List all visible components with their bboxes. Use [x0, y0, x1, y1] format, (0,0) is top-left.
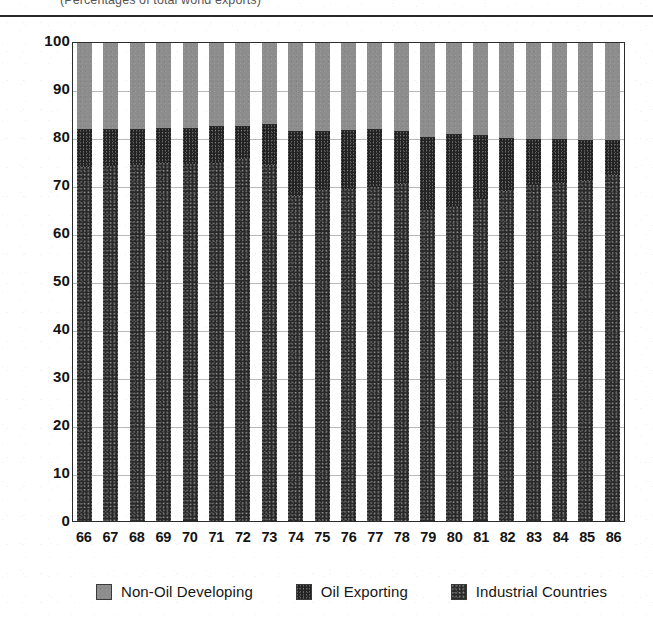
- x-axis-tick-label: 81: [473, 529, 488, 551]
- bar-segment-oil-exporting: [77, 130, 92, 167]
- bar-segment-oil-exporting: [499, 139, 514, 192]
- bar-70: [183, 43, 198, 521]
- x-axis-tick-label: 69: [155, 529, 170, 551]
- bar-segment-industrial-countries: [473, 199, 488, 521]
- x-axis-tick-label: 80: [447, 529, 462, 551]
- y-axis-tick-label: 90: [24, 80, 70, 97]
- bar-segment-oil-exporting: [394, 132, 409, 185]
- bar-segment-non-oil-developing: [209, 43, 224, 127]
- y-axis-tick-label: 30: [24, 368, 70, 385]
- x-axis-tick-label: 70: [182, 529, 197, 551]
- x-axis-tick-label: 83: [526, 529, 541, 551]
- bar-segment-industrial-countries: [446, 207, 461, 521]
- x-axis: 6667686970717273747576777879808182838485…: [72, 529, 625, 551]
- bar-segment-oil-exporting: [156, 129, 171, 163]
- bar-segment-non-oil-developing: [130, 43, 145, 130]
- x-axis-tick-label: 76: [341, 529, 356, 551]
- bar-segment-industrial-countries: [262, 165, 277, 521]
- bar-segment-non-oil-developing: [578, 43, 593, 141]
- bar-segment-non-oil-developing: [156, 43, 171, 129]
- bar-segment-industrial-countries: [235, 159, 250, 521]
- bar-segment-industrial-countries: [77, 167, 92, 521]
- bar-segment-industrial-countries: [605, 175, 620, 521]
- bar-76: [341, 43, 356, 521]
- bar-segment-industrial-countries: [288, 196, 303, 521]
- plot-area: [72, 42, 625, 522]
- y-axis-tick-label: 0: [24, 512, 70, 529]
- legend-label-industrial-countries: Industrial Countries: [476, 583, 607, 600]
- chart-legend: Non-Oil DevelopingOil ExportingIndustria…: [72, 583, 625, 600]
- bar-segment-oil-exporting: [605, 141, 620, 174]
- bar-segment-oil-exporting: [367, 130, 382, 187]
- bar-segment-industrial-countries: [578, 181, 593, 521]
- x-axis-tick-label: 73: [261, 529, 276, 551]
- bar-75: [315, 43, 330, 521]
- bar-71: [209, 43, 224, 521]
- bar-segment-oil-exporting: [262, 125, 277, 165]
- bar-segment-non-oil-developing: [235, 43, 250, 127]
- bar-82: [499, 43, 514, 521]
- bar-83: [526, 43, 541, 521]
- bar-segment-oil-exporting: [183, 129, 198, 164]
- y-axis-tick-label: 80: [24, 128, 70, 145]
- bar-segment-non-oil-developing: [77, 43, 92, 130]
- bar-segment-non-oil-developing: [499, 43, 514, 139]
- y-axis-tick-label: 40: [24, 320, 70, 337]
- x-axis-tick-label: 82: [500, 529, 515, 551]
- legend-item-oil-exporting[interactable]: Oil Exporting: [296, 583, 408, 600]
- bar-segment-industrial-countries: [156, 163, 171, 521]
- bar-segment-industrial-countries: [499, 191, 514, 521]
- bar-segment-industrial-countries: [341, 189, 356, 521]
- x-axis-tick-label: 77: [367, 529, 382, 551]
- legend-swatch-industrial-countries: [451, 584, 467, 600]
- bar-segment-industrial-countries: [367, 187, 382, 521]
- bar-segment-oil-exporting: [341, 131, 356, 189]
- bar-segment-non-oil-developing: [473, 43, 488, 136]
- bar-segment-non-oil-developing: [103, 43, 118, 130]
- x-axis-tick-label: 86: [606, 529, 621, 551]
- bar-85: [578, 43, 593, 521]
- bar-segment-industrial-countries: [209, 163, 224, 521]
- bar-78: [394, 43, 409, 521]
- x-axis-tick-label: 84: [553, 529, 568, 551]
- bar-72: [235, 43, 250, 521]
- legend-item-industrial-countries[interactable]: Industrial Countries: [451, 583, 607, 600]
- legend-item-non-oil-developing[interactable]: Non-Oil Developing: [96, 583, 253, 600]
- bar-77: [367, 43, 382, 521]
- x-axis-tick-label: 74: [288, 529, 303, 551]
- bar-80: [446, 43, 461, 521]
- bar-segment-industrial-countries: [183, 164, 198, 521]
- x-axis-tick-label: 68: [129, 529, 144, 551]
- bar-segment-industrial-countries: [103, 166, 118, 521]
- bar-segment-non-oil-developing: [446, 43, 461, 135]
- legend-label-non-oil-developing: Non-Oil Developing: [121, 583, 253, 600]
- bar-segment-oil-exporting: [315, 132, 330, 190]
- bar-segment-non-oil-developing: [288, 43, 303, 132]
- bar-segment-oil-exporting: [209, 127, 224, 163]
- bar-74: [288, 43, 303, 521]
- bar-segment-oil-exporting: [552, 140, 567, 183]
- bar-segment-oil-exporting: [526, 140, 541, 186]
- legend-swatch-non-oil-developing: [96, 584, 112, 600]
- chart-subtitle: (Percentages of total world exports): [60, 0, 261, 7]
- bar-segment-industrial-countries: [130, 165, 145, 521]
- bar-79: [420, 43, 435, 521]
- bar-67: [103, 43, 118, 521]
- y-axis-tick-label: 10: [24, 464, 70, 481]
- bar-segment-non-oil-developing: [341, 43, 356, 131]
- bar-66: [77, 43, 92, 521]
- y-axis-tick-label: 60: [24, 224, 70, 241]
- bar-81: [473, 43, 488, 521]
- bar-segment-oil-exporting: [446, 135, 461, 208]
- bar-segment-non-oil-developing: [605, 43, 620, 141]
- bar-segment-industrial-countries: [394, 184, 409, 521]
- bar-segment-non-oil-developing: [552, 43, 567, 140]
- x-axis-tick-label: 72: [235, 529, 250, 551]
- bar-segment-industrial-countries: [552, 183, 567, 521]
- bar-segment-industrial-countries: [420, 210, 435, 521]
- header-divider: [0, 15, 653, 17]
- y-axis-tick-label: 100: [24, 32, 70, 49]
- bar-series-container: [73, 43, 624, 521]
- bar-segment-oil-exporting: [103, 130, 118, 166]
- bar-segment-industrial-countries: [315, 190, 330, 521]
